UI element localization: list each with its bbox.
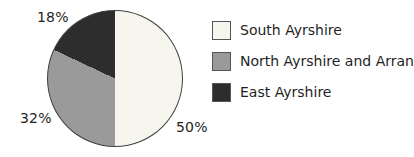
- legend-swatch: [212, 52, 231, 71]
- legend-swatch: [212, 21, 231, 40]
- slice-label-south-ayrshire: 50%: [176, 119, 208, 135]
- legend-label: East Ayrshire: [240, 84, 331, 100]
- slice-label-north-ayrshire-and-arran: 32%: [20, 110, 52, 126]
- legend-item-east-ayrshire: East Ayrshire: [212, 83, 414, 101]
- pie: [47, 10, 183, 147]
- legend-label: South Ayrshire: [240, 22, 342, 38]
- legend-label: North Ayrshire and Arran: [240, 53, 414, 69]
- legend: South Ayrshire North Ayrshire and Arran …: [212, 21, 414, 101]
- legend-item-south-ayrshire: South Ayrshire: [212, 21, 414, 39]
- pie-chart-figure: 18% 32% 50% South Ayrshire North Ayrshir…: [0, 0, 414, 157]
- legend-swatch: [212, 83, 231, 102]
- slice-label-east-ayrshire: 18%: [37, 9, 69, 25]
- legend-item-north-ayrshire-and-arran: North Ayrshire and Arran: [212, 52, 414, 70]
